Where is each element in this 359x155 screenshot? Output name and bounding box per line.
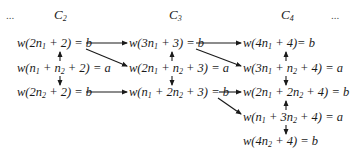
arrow-c3r3-to-c4r4 xyxy=(218,98,241,114)
arrow-c3r1-to-c4r2 xyxy=(196,49,241,66)
arrow-layer xyxy=(0,0,359,155)
arrow-c2r1-to-c3r2 xyxy=(86,49,127,66)
